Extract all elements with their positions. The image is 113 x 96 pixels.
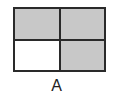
grid-cell (60, 40, 105, 71)
figure-label: A (0, 78, 113, 94)
shaded-grid-figure (13, 7, 106, 72)
grid-cell (15, 40, 60, 71)
grid-cell (60, 9, 105, 40)
grid-cell (15, 9, 60, 40)
